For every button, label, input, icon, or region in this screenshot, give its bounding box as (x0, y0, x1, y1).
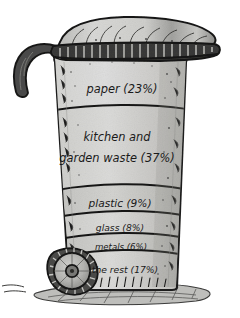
bin-wheel (47, 248, 98, 295)
waste-composition-illustration: paper (23%) kitchen and garden waste (37… (0, 0, 240, 318)
segment-label-the-rest: the rest (17%) (92, 264, 158, 275)
segment-label-glass: glass (8%) (96, 222, 144, 233)
segment-label-plastic: plastic (9%) (87, 197, 151, 209)
segment-label-metals: metals (6%) (95, 242, 147, 252)
segment-label-kitchen-garden-waste-line2: garden waste (37%) (59, 151, 175, 165)
bin-lid (51, 17, 220, 61)
segment-label-paper: paper (23%) (86, 82, 158, 96)
segment-label-kitchen-garden-waste-line1: kitchen and (84, 130, 152, 144)
